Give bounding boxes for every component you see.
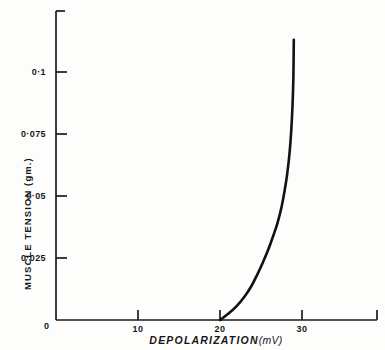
chart-figure: 0·1 0·075 0·05 0·025 10 20 30 0 MUSCLE T… — [0, 0, 385, 350]
plot-area — [0, 0, 385, 350]
y-tick-label-0-075: 0·075 — [8, 129, 46, 139]
data-curve — [220, 40, 294, 320]
x-tick-label-20: 20 — [215, 324, 226, 334]
x-axis-title: DEPOLARIZATION(mV) — [149, 334, 282, 346]
origin-label: 0 — [44, 321, 49, 331]
y-tick-label-0-1: 0·1 — [8, 67, 46, 77]
y-axis-title: MUSCLE TENSION (gm.) — [22, 157, 33, 290]
x-tick-label-30: 30 — [297, 324, 308, 334]
x-tick-label-10: 10 — [133, 324, 144, 334]
x-axis-title-unit: (mV) — [259, 334, 283, 346]
x-axis-title-main: DEPOLARIZATION — [149, 334, 258, 346]
